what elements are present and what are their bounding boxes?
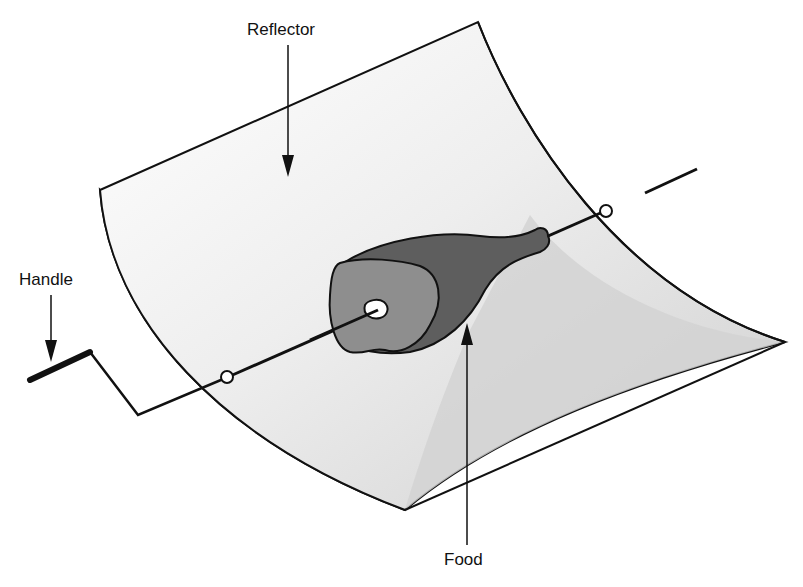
pivot-bearing-left <box>221 371 233 383</box>
handle-grip <box>30 352 90 380</box>
handle-arrow-head <box>45 340 57 362</box>
food-label: Food <box>444 550 483 570</box>
spit-rod-outer <box>645 169 697 193</box>
handle-label: Handle <box>19 270 73 290</box>
reflector-label: Reflector <box>247 20 315 40</box>
solar-cooker-diagram <box>0 0 803 587</box>
pivot-bearing-right <box>600 205 612 217</box>
